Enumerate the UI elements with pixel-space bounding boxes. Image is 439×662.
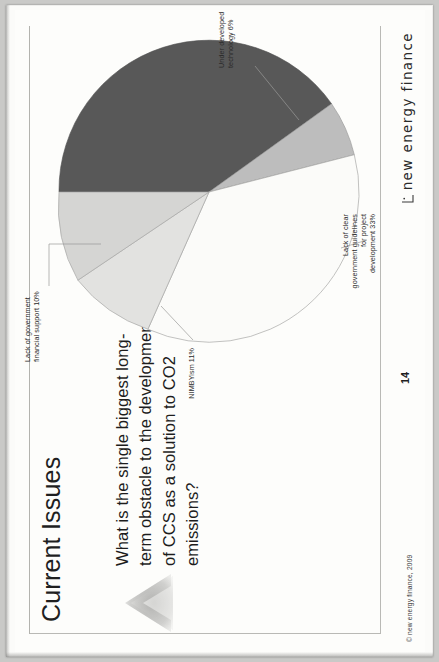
scanned-page: Current Issues What is the single bigges… — [6, 5, 433, 657]
page-title: Current Issues — [37, 457, 66, 622]
copyright-notice: © new energy finance, 2009 — [406, 555, 413, 642]
logo-mark-icon — [401, 194, 415, 203]
pie-label-technology: Under developed technology 6% — [217, 0, 235, 68]
pie-chart: Lack of government financial support 10%… — [41, 22, 371, 352]
pie-label-government-support: Lack of government financial support 10% — [23, 276, 41, 362]
pie-chart-svg — [41, 22, 371, 352]
scan-edge-bottom — [6, 652, 433, 657]
presentation-slide: Current Issues What is the single bigges… — [15, 10, 425, 652]
pie-label-guidelines: Lack of clear government guidelines for … — [341, 214, 377, 306]
logo-text: new energy finance — [399, 32, 415, 190]
company-logo: new energy finance — [399, 32, 415, 203]
pie-label-nimbyism: NIMBYism 11% — [187, 348, 196, 418]
chevron-arrow-icon — [119, 570, 177, 636]
page-number: 14 — [399, 372, 411, 384]
scan-edge-left — [6, 5, 10, 657]
